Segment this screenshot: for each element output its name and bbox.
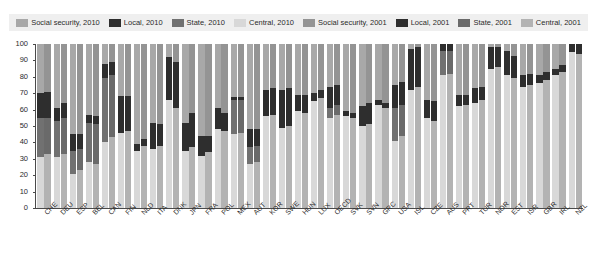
bar-2010[interactable] [488, 44, 494, 208]
bar-2001[interactable] [511, 44, 517, 208]
bar-2001[interactable] [173, 44, 179, 208]
bar-group[interactable] [326, 44, 342, 208]
bar-2010[interactable] [472, 44, 478, 208]
bar-2001[interactable] [463, 44, 469, 208]
bar-2010[interactable] [359, 44, 365, 208]
bar-group[interactable] [390, 44, 406, 208]
bar-2010[interactable] [440, 44, 446, 208]
bar-2001[interactable] [350, 44, 356, 208]
bar-2010[interactable] [150, 44, 156, 208]
bar-2010[interactable] [456, 44, 462, 208]
bar-group[interactable] [454, 44, 470, 208]
bar-2010[interactable] [569, 44, 575, 208]
bar-group[interactable] [133, 44, 149, 208]
bar-group[interactable] [567, 44, 583, 208]
bar-2001[interactable] [302, 44, 308, 208]
bar-2001[interactable] [382, 44, 388, 208]
bar-2001[interactable] [559, 44, 565, 208]
bar-2001[interactable] [270, 44, 276, 208]
bar-2010[interactable] [118, 44, 124, 208]
bar-group[interactable] [310, 44, 326, 208]
bar-2001[interactable] [77, 44, 83, 208]
bar-2001[interactable] [286, 44, 292, 208]
bar-group[interactable] [165, 44, 181, 208]
bar-group[interactable] [197, 44, 213, 208]
bar-2010[interactable] [247, 44, 253, 208]
bar-2001[interactable] [318, 44, 324, 208]
bar-2001[interactable] [366, 44, 372, 208]
bar-2010[interactable] [102, 44, 108, 208]
bar-2010[interactable] [134, 44, 140, 208]
bar-group[interactable] [471, 44, 487, 208]
bar-group[interactable] [229, 44, 245, 208]
bar-group[interactable] [487, 44, 503, 208]
bar-group[interactable] [213, 44, 229, 208]
bar-group[interactable] [181, 44, 197, 208]
bar-2001[interactable] [109, 44, 115, 208]
bar-group[interactable] [149, 44, 165, 208]
bar-group[interactable] [406, 44, 422, 208]
bar-group[interactable] [261, 44, 277, 208]
bar-2010[interactable] [375, 44, 381, 208]
bar-group[interactable] [52, 44, 68, 208]
bar-2001[interactable] [527, 44, 533, 208]
bar-2001[interactable] [447, 44, 453, 208]
bar-2010[interactable] [70, 44, 76, 208]
bar-group[interactable] [277, 44, 293, 208]
bar-2001[interactable] [495, 44, 501, 208]
bar-2010[interactable] [408, 44, 414, 208]
bar-2001[interactable] [141, 44, 147, 208]
bar-2001[interactable] [334, 44, 340, 208]
bar-group[interactable] [519, 44, 535, 208]
bar-group[interactable] [68, 44, 84, 208]
bar-2001[interactable] [221, 44, 227, 208]
bar-2010[interactable] [86, 44, 92, 208]
bar-group[interactable] [503, 44, 519, 208]
bar-group[interactable] [342, 44, 358, 208]
bar-group[interactable] [535, 44, 551, 208]
bar-2010[interactable] [552, 44, 558, 208]
bar-group[interactable] [422, 44, 438, 208]
bar-2001[interactable] [254, 44, 260, 208]
bar-group[interactable] [551, 44, 567, 208]
bar-group[interactable] [116, 44, 132, 208]
bar-2001[interactable] [205, 44, 211, 208]
bar-2001[interactable] [543, 44, 549, 208]
bar-2001[interactable] [238, 44, 244, 208]
bar-2010[interactable] [392, 44, 398, 208]
bar-2010[interactable] [295, 44, 301, 208]
bar-2010[interactable] [504, 44, 510, 208]
bar-2001[interactable] [189, 44, 195, 208]
bar-2010[interactable] [311, 44, 317, 208]
bar-group[interactable] [100, 44, 116, 208]
bar-2010[interactable] [424, 44, 430, 208]
bar-2010[interactable] [215, 44, 221, 208]
bar-2001[interactable] [125, 44, 131, 208]
bar-2010[interactable] [54, 44, 60, 208]
bar-2010[interactable] [198, 44, 204, 208]
bar-2010[interactable] [536, 44, 542, 208]
bar-2001[interactable] [399, 44, 405, 208]
bar-group[interactable] [245, 44, 261, 208]
bar-2001[interactable] [44, 44, 50, 208]
bar-2001[interactable] [479, 44, 485, 208]
bar-2010[interactable] [166, 44, 172, 208]
bar-group[interactable] [294, 44, 310, 208]
bar-group[interactable] [358, 44, 374, 208]
bar-2001[interactable] [61, 44, 67, 208]
bar-2010[interactable] [231, 44, 237, 208]
bar-2010[interactable] [343, 44, 349, 208]
bar-2010[interactable] [279, 44, 285, 208]
bar-2001[interactable] [415, 44, 421, 208]
bar-2001[interactable] [576, 44, 582, 208]
bar-2001[interactable] [431, 44, 437, 208]
bar-2010[interactable] [520, 44, 526, 208]
bar-group[interactable] [438, 44, 454, 208]
bar-group[interactable] [36, 44, 52, 208]
bar-2001[interactable] [157, 44, 163, 208]
bar-2010[interactable] [37, 44, 43, 208]
bar-2010[interactable] [263, 44, 269, 208]
bar-2010[interactable] [182, 44, 188, 208]
bar-group[interactable] [84, 44, 100, 208]
bar-group[interactable] [374, 44, 390, 208]
